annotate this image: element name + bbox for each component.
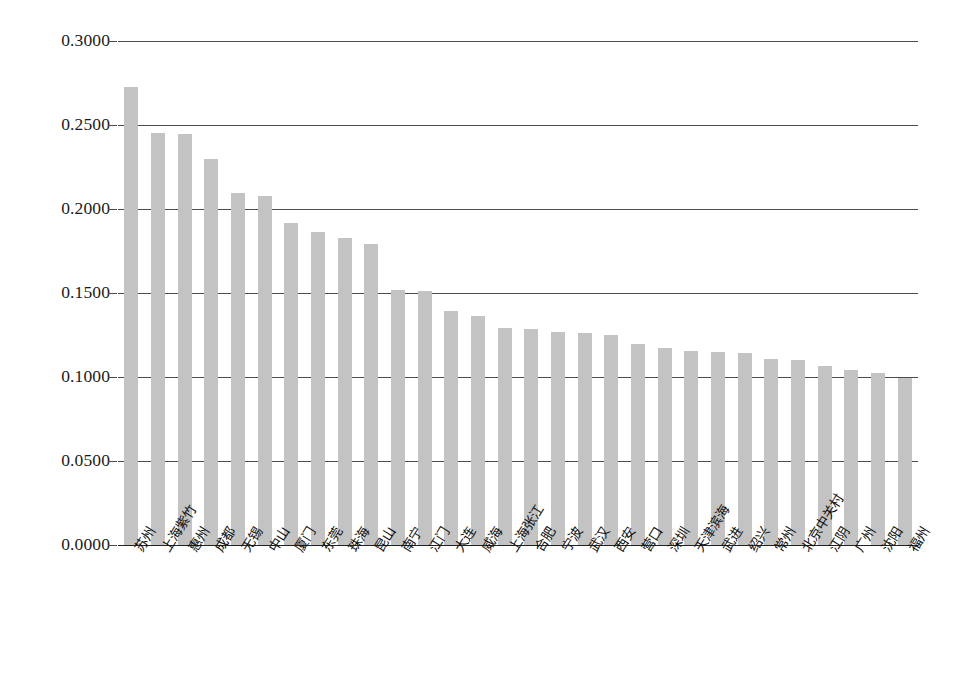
bar[interactable] <box>738 353 752 545</box>
bar[interactable] <box>684 351 698 545</box>
y-tick-label: 0.1500 <box>24 284 110 302</box>
y-tick-label: 0.2000 <box>24 200 110 218</box>
bar[interactable] <box>791 360 805 545</box>
bar[interactable] <box>844 370 858 545</box>
bar[interactable] <box>578 333 592 545</box>
bars-layer <box>118 41 918 545</box>
bar[interactable] <box>338 238 352 545</box>
y-tick-label: 0.0500 <box>24 452 110 470</box>
bar[interactable] <box>658 348 672 545</box>
bar[interactable] <box>764 359 778 545</box>
y-tick-mark <box>108 461 117 462</box>
y-tick-mark <box>108 293 117 294</box>
bar[interactable] <box>551 332 565 545</box>
bar[interactable] <box>284 223 298 545</box>
chart-page: 0.30000.25000.20000.15000.10000.05000.00… <box>0 0 953 683</box>
y-tick-label: 0.2500 <box>24 116 110 134</box>
bar[interactable] <box>124 87 138 545</box>
x-axis-labels: 苏州上海紫竹惠州成都无锡中山厦门东莞珠海昆山南宁江门大连威海上海张江合肥宁波武汉… <box>118 547 918 677</box>
y-tick-label: 0.0000 <box>24 536 110 554</box>
y-tick-mark <box>108 41 117 42</box>
bar[interactable] <box>418 291 432 545</box>
bar[interactable] <box>631 344 645 545</box>
bar[interactable] <box>604 335 618 545</box>
y-axis-labels: 0.30000.25000.20000.15000.10000.05000.00… <box>22 41 110 545</box>
bar[interactable] <box>178 134 192 545</box>
bar[interactable] <box>311 232 325 545</box>
y-tick-mark <box>108 125 117 126</box>
bar[interactable] <box>898 378 912 545</box>
y-tick-label: 0.3000 <box>24 32 110 50</box>
y-tick-mark <box>108 545 117 546</box>
bar[interactable] <box>151 133 165 545</box>
bar[interactable] <box>444 311 458 545</box>
bar[interactable] <box>498 328 512 545</box>
plot-area <box>118 41 918 545</box>
bar[interactable] <box>364 244 378 545</box>
y-axis-ticks <box>108 41 118 545</box>
bar[interactable] <box>258 196 272 545</box>
y-tick-label: 0.1000 <box>24 368 110 386</box>
y-tick-mark <box>108 377 117 378</box>
bar[interactable] <box>204 159 218 545</box>
bar[interactable] <box>871 373 885 545</box>
bar[interactable] <box>231 193 245 545</box>
bar[interactable] <box>391 290 405 545</box>
bar[interactable] <box>471 316 485 545</box>
y-tick-mark <box>108 209 117 210</box>
